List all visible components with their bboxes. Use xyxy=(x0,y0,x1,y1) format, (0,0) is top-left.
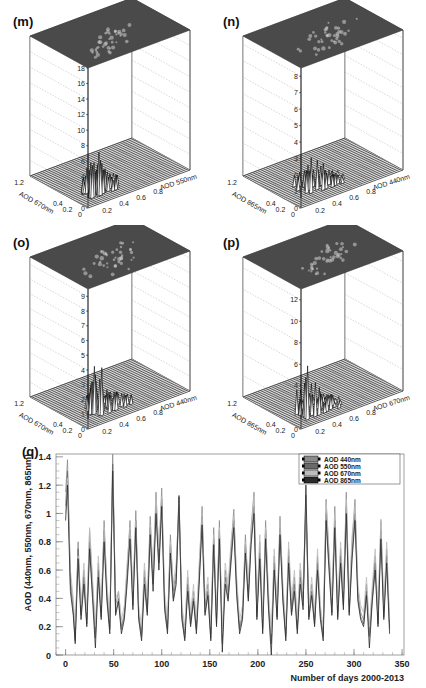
projection-point xyxy=(322,257,326,261)
legend-label: AOD 670nm xyxy=(324,470,361,477)
projection-point xyxy=(317,40,320,43)
projection-point xyxy=(327,22,329,24)
projection-point xyxy=(119,241,122,244)
projection-point xyxy=(340,242,344,246)
y-tick-label: 0.4 xyxy=(53,421,63,428)
z-tick-label: 6 xyxy=(81,337,85,344)
projection-point xyxy=(356,18,358,20)
y-axis-title: AOD 670nm xyxy=(18,190,55,215)
y-tick-label: 0 xyxy=(291,211,295,218)
projection-point xyxy=(347,30,349,32)
projection-point xyxy=(325,27,329,31)
projection-point xyxy=(111,45,115,49)
projection-point xyxy=(127,23,131,27)
z-tick-label: 6 xyxy=(294,106,298,113)
projection-point xyxy=(114,30,116,32)
projection-point xyxy=(321,46,325,50)
x-tick-label: 0.4 xyxy=(119,421,129,428)
y-tick-label: 0.6 xyxy=(38,566,51,576)
projection-point xyxy=(299,49,302,52)
z-tick-label: 5 xyxy=(294,122,298,129)
panel-p: (p) AOD Component 0246810120.20.40.60.80… xyxy=(213,225,426,443)
z-tick-label: 16 xyxy=(77,80,85,87)
lego-plot-p: 0246810120.20.40.60.800.20.41.2AOD 670nm… xyxy=(213,225,426,443)
projection-point xyxy=(343,32,347,36)
projection-point xyxy=(345,250,349,254)
z-tick-label: 12 xyxy=(290,296,298,303)
projection-point xyxy=(98,35,102,39)
projection-point xyxy=(335,242,338,245)
projection-point xyxy=(111,272,115,276)
x-tick-label: 150 xyxy=(202,659,217,669)
y-tick-label: 0.2 xyxy=(63,206,73,213)
y-tick-label: 0.2 xyxy=(63,427,73,434)
z-tick-label: 8 xyxy=(81,142,85,149)
y-tick-label: 1.2 xyxy=(14,400,24,407)
projection-point xyxy=(115,33,117,35)
projection-point xyxy=(115,41,117,43)
projection-point xyxy=(337,30,341,34)
projection-point xyxy=(325,249,329,253)
lego-plot-m: 0246810121416180.20.40.60.800.20.41.2AOD… xyxy=(0,0,213,222)
projection-point xyxy=(334,251,338,255)
x-tick-label: 350 xyxy=(395,659,410,669)
projection-point xyxy=(96,47,98,49)
projection-point xyxy=(320,250,323,253)
projection-point xyxy=(313,46,317,50)
panel-o: (o) 2D Component 01234567890.20.40.60.80… xyxy=(0,225,213,443)
y-tick-label: 0 xyxy=(78,211,82,218)
z-tick-label: 10 xyxy=(290,318,298,325)
projection-point xyxy=(324,31,327,34)
x-tick-label: 0.4 xyxy=(332,421,342,428)
projection-point xyxy=(129,248,132,251)
x-tick-label: 0.2 xyxy=(102,428,112,435)
x-tick-label: 0.6 xyxy=(349,415,359,422)
projection-point xyxy=(342,20,346,24)
projection-point xyxy=(326,244,329,247)
projection-point xyxy=(321,40,324,43)
y-tick-label: 0.2 xyxy=(38,622,51,632)
x-tick-label: 50 xyxy=(109,659,119,669)
x-tick-label: 300 xyxy=(346,659,361,669)
legend-label: AOD 865nm xyxy=(324,477,361,484)
x-tick-label: 0.6 xyxy=(136,415,146,422)
legend-swatch xyxy=(304,470,318,476)
y-axis-title: AOD 670nm xyxy=(18,411,55,436)
x-tick-label: 0 xyxy=(63,659,68,669)
projection-point xyxy=(111,41,114,44)
projection-point xyxy=(95,254,99,258)
projection-point xyxy=(117,30,121,34)
y-tick-label: 0 xyxy=(78,432,82,439)
z-tick-label: 12 xyxy=(77,111,85,118)
projection-point xyxy=(114,257,116,259)
projection-point xyxy=(353,243,357,247)
z-tick-label: 7 xyxy=(294,89,298,96)
projection-point xyxy=(105,254,108,257)
z-tick-label: 8 xyxy=(294,73,298,80)
projection-point xyxy=(82,268,85,271)
x-tick-label: 0.6 xyxy=(349,194,359,201)
x-tick-label: 250 xyxy=(298,659,313,669)
z-tick-label: 5 xyxy=(81,352,85,359)
line-chart-q: 00.20.40.60.811.21.405010015020025030035… xyxy=(0,440,426,688)
panel-q: (q) 00.20.40.60.811.21.40501001502002503… xyxy=(0,440,426,688)
projection-point xyxy=(106,262,108,264)
projection-point xyxy=(83,271,87,275)
z-tick-label: 10 xyxy=(77,127,85,134)
projection-point xyxy=(101,250,105,254)
projection-point xyxy=(119,250,122,253)
lego-plot-n: 0123456780.20.40.60.800.20.41.2AOD 440nm… xyxy=(213,0,426,222)
z-tick-label: 7 xyxy=(81,322,85,329)
legend-marker xyxy=(302,465,305,468)
projection-point xyxy=(121,254,124,257)
y-tick-label: 0.8 xyxy=(38,537,51,547)
panel-n: (n) 2D Component 0123456780.20.40.60.800… xyxy=(213,0,426,222)
x-tick-label: 0.2 xyxy=(315,428,325,435)
projection-point xyxy=(119,257,122,260)
projection-point xyxy=(120,246,123,249)
projection-point xyxy=(310,270,312,272)
projection-point xyxy=(100,256,104,260)
lego-plot-o: 01234567890.20.40.60.800.20.41.2AOD 440n… xyxy=(0,225,213,443)
projection-point xyxy=(330,256,332,258)
projection-point xyxy=(328,46,331,49)
